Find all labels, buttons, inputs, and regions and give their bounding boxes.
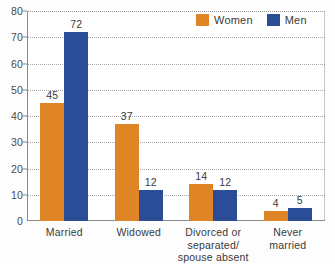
legend-item-women[interactable]: Women	[196, 14, 253, 26]
y-axis-tick-80	[22, 11, 27, 12]
x-axis-label-0: Married	[27, 226, 102, 239]
y-axis-tick-10	[22, 194, 27, 195]
legend-item-men[interactable]: Men	[267, 14, 307, 26]
y-axis-tick-20	[22, 168, 27, 169]
gridline-80	[28, 11, 325, 12]
x-axis-label-line: Never	[251, 226, 326, 239]
y-axis-label-0: 0	[17, 215, 23, 227]
x-axis-label-line: Divorced or	[176, 226, 251, 239]
x-axis-label-line: married	[251, 239, 326, 252]
x-axis-label-3: Nevermarried	[251, 226, 326, 251]
gridline-60	[28, 64, 325, 65]
gridline-10	[28, 195, 325, 196]
x-axis-label-line: separated/	[176, 239, 251, 252]
legend-label-men: Men	[285, 14, 307, 26]
x-axis-label-line: Widowed	[102, 226, 177, 239]
y-axis-tick-70	[22, 37, 27, 38]
gridline-40	[28, 116, 325, 117]
legend-label-women: Women	[214, 14, 253, 26]
y-axis-tick-30	[22, 142, 27, 143]
gridline-20	[28, 169, 325, 170]
x-axis-label-line: Married	[27, 226, 102, 239]
y-axis: 01020304050607080	[0, 0, 27, 232]
x-axis: MarriedWidowedDivorced orseparated/spous…	[27, 226, 325, 264]
y-axis-tick-40	[22, 116, 27, 117]
x-axis-label-2: Divorced orseparated/spouse absent	[176, 226, 251, 264]
gridline-50	[28, 90, 325, 91]
bar-chart: 01020304050607080 45723712141245 Married…	[0, 0, 335, 264]
y-axis-tick-60	[22, 63, 27, 64]
legend-swatch-men	[267, 14, 280, 26]
legend: WomenMen	[196, 14, 307, 26]
gridline-30	[28, 142, 325, 143]
x-axis-label-line: spouse absent	[176, 251, 251, 264]
gridline-70	[28, 37, 325, 38]
x-axis-label-1: Widowed	[102, 226, 177, 239]
legend-swatch-women	[196, 14, 209, 26]
y-axis-tick-50	[22, 89, 27, 90]
plot-area	[27, 11, 325, 221]
